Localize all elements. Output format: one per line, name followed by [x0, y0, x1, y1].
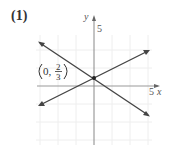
y-axis-label: y: [83, 11, 89, 22]
y-axis-arrow-icon: [92, 15, 96, 21]
coordinate-plot: y 5 5 x 0, 2 3: [0, 0, 172, 151]
intercept-point: [92, 76, 96, 80]
annotation-numerator: 2: [56, 62, 61, 72]
x-tick-label: 5: [149, 86, 154, 97]
annotation-denominator: 3: [56, 72, 61, 82]
x-axis-label: x: [156, 86, 162, 97]
point-annotation: 0, 2 3: [39, 62, 67, 82]
annotation-prefix: 0,: [43, 65, 52, 77]
y-tick-label: 5: [97, 23, 102, 34]
